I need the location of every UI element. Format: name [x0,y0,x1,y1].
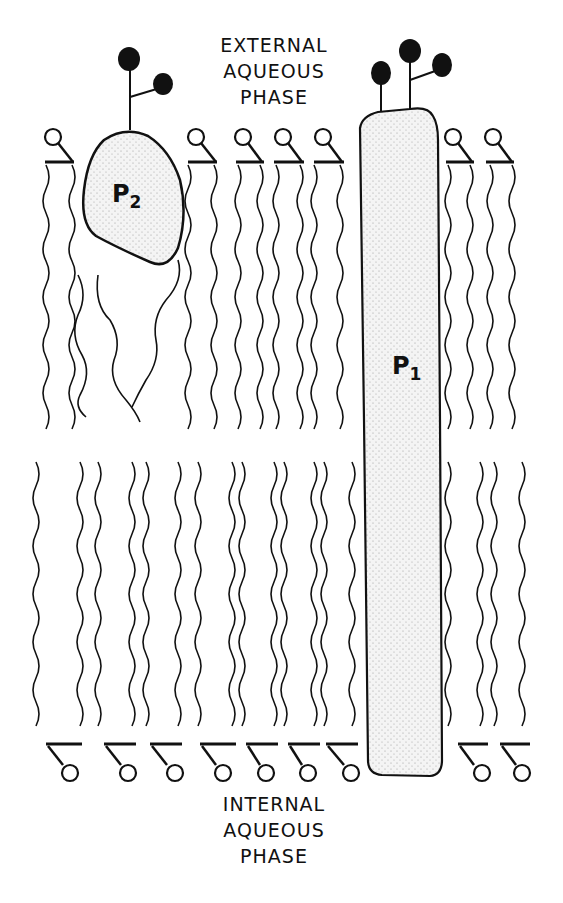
glycan-sugar-icon [371,61,391,85]
outer-tail [97,275,140,422]
inner-lipid [321,462,359,781]
outer-tail [132,260,180,407]
inner-lipid [195,462,236,781]
outer-lipid [235,129,264,429]
inner-leaflet [33,462,530,781]
outer-lipid [185,129,217,429]
internal-label-line-1: INTERNAL [174,791,374,817]
glycan-sugar-icon [399,39,421,63]
glycan-sugar-icon [118,47,140,71]
internal-label-line-2: AQUEOUS [174,817,374,843]
outer-lipid [485,129,515,429]
inner-lipid [143,462,183,781]
membrane-diagram: EXTERNAL AQUEOUS PHASE INTERNAL AQUEOUS … [0,0,563,903]
inner-lipid [491,462,530,781]
inner-lipid [95,462,136,781]
protein-p2 [83,47,183,264]
external-label-line-3: PHASE [174,84,374,110]
outer-lipid [445,129,474,429]
inner-lipid [445,462,490,781]
protein-p1 [360,39,452,776]
outer-lipid [311,129,344,429]
p2-label: P2 [112,180,141,212]
external-label-line-2: AQUEOUS [174,58,374,84]
p1-label: P1 [392,352,421,384]
internal-label-line-3: PHASE [174,843,374,869]
inner-lipid [281,462,320,781]
glycan-sugar-icon [153,73,173,95]
p1-body [360,108,442,776]
glycan-sugar-icon [432,53,452,77]
outer-tail [75,275,87,417]
inner-lipid [33,462,83,781]
membrane-svg [0,0,563,903]
outer-lipid [273,129,304,429]
external-label-line-1: EXTERNAL [174,32,374,58]
inner-lipid [239,462,278,781]
outer-lipid [43,129,75,429]
